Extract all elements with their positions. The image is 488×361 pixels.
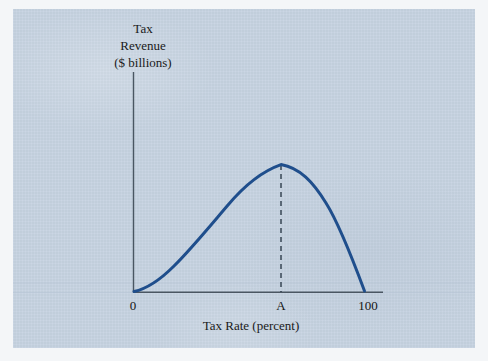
x-tick-label-0: 0	[130, 298, 137, 313]
y-axis-label-line-1: Tax	[133, 21, 153, 36]
x-axis-label: Tax Rate (percent)	[203, 318, 300, 333]
page-rules	[13, 283, 475, 293]
y-axis-label: Tax Revenue ($ billions)	[114, 21, 171, 70]
x-tick-label-a: A	[276, 298, 286, 313]
y-axis-label-line-3: ($ billions)	[114, 55, 171, 70]
laffer-curve-chart: Tax Revenue ($ billions) 0 A 100 Tax Rat…	[0, 0, 488, 361]
y-axis-label-line-2: Revenue	[120, 38, 166, 53]
laffer-curve-path	[134, 165, 365, 292]
x-tick-label-100: 100	[358, 298, 378, 313]
figure-root: Tax Revenue ($ billions) 0 A 100 Tax Rat…	[0, 0, 488, 361]
